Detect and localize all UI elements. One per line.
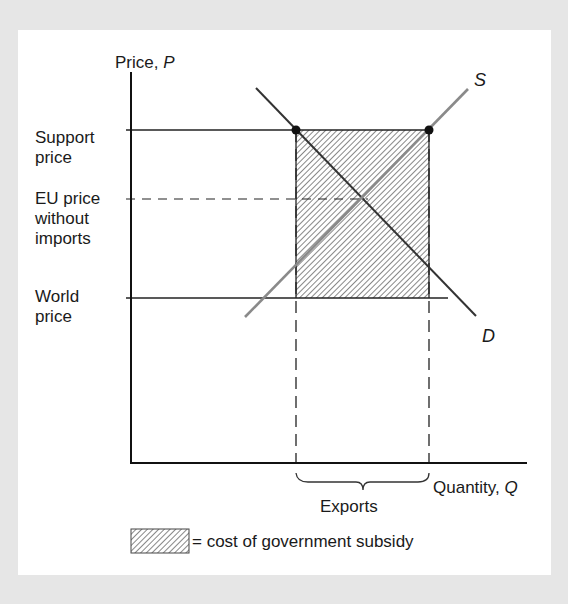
exports-label: Exports (320, 497, 378, 517)
demand-label: D (482, 326, 495, 346)
supply-label: S (474, 70, 486, 90)
y-axis-label: Price, P (115, 53, 175, 73)
diagram-panel: Price, P Support price EU price without … (18, 30, 551, 575)
legend-label: = cost of government subsidy (192, 532, 414, 552)
subsidy-area (296, 130, 429, 298)
support-supply-point (425, 126, 434, 135)
support-price-label: Support price (35, 128, 95, 168)
eu-price-label: EU price without imports (35, 189, 100, 249)
exports-brace (296, 473, 429, 490)
legend-swatch (131, 529, 189, 553)
support-demand-point (292, 126, 301, 135)
world-price-label: World price (35, 287, 79, 327)
x-axis-label: Quantity, Q (433, 478, 518, 498)
